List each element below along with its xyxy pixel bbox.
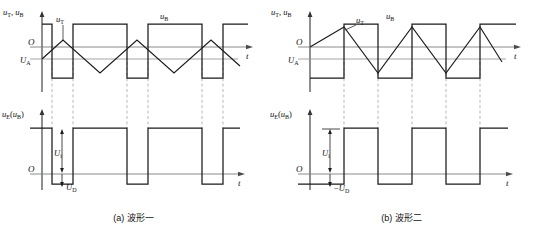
panel-a-svg: uT, uB O UA uT uB t — [0, 0, 267, 200]
caption-panel-b: (b) 波形二 — [268, 211, 535, 224]
triangle-wave-ut-a — [42, 40, 240, 73]
lower-y-axis-label-b: uE(uB) — [270, 109, 292, 120]
upper-x-axis-arrow-b — [514, 45, 521, 50]
lower-x-axis-label-a: t — [238, 178, 241, 188]
trace-label-ub-b: uB — [386, 11, 394, 22]
upper-x-axis-label-b: t — [514, 51, 517, 61]
reference-label-ua-b: UA — [288, 55, 299, 66]
upper-origin-label-a: O — [28, 37, 35, 47]
square-wave-ub-a — [42, 24, 248, 78]
upper-y-axis-arrow-a — [40, 11, 45, 17]
caption-panel-a: (a) 波形一 — [0, 211, 267, 224]
lower-plot-b: Ui −UD uE(uB) O t — [270, 109, 513, 194]
triangle-wave-ut-b — [310, 27, 502, 73]
trace-label-ut-b: uT — [356, 15, 364, 26]
upper-y-axis-arrow-b — [308, 11, 313, 17]
upper-y-axis-label-a: uT, uB — [3, 7, 23, 18]
upper-x-axis-label-a: t — [246, 51, 249, 61]
lower-y-axis-arrow-b — [308, 109, 313, 115]
upper-plot-b: uT, uB O UA uT uB t — [271, 7, 521, 128]
panel-waveform-a: uT, uB O UA uT uB t — [0, 0, 267, 227]
amplitude-arrow-ui-a — [60, 129, 64, 173]
upper-y-axis-label-b: uT, uB — [271, 7, 291, 18]
trace-label-ub-a: uB — [160, 11, 168, 22]
ut-leader-line-b — [345, 25, 356, 30]
reference-label-ua-a: UA — [20, 55, 31, 66]
dashed-connectors-a — [52, 62, 223, 128]
upper-origin-label-b: O — [296, 37, 303, 47]
panel-b-svg: uT, uB O UA uT uB t — [268, 0, 535, 200]
offset-arrow-ud-a — [60, 174, 64, 187]
offset-label-ud-a: UD — [66, 182, 77, 193]
lower-plot-a: Ui UD uE(uB) O t — [2, 109, 245, 193]
lower-y-axis-label-a: uE(uB) — [2, 109, 24, 120]
panel-waveform-b: uT, uB O UA uT uB t — [268, 0, 535, 227]
lower-x-axis-arrow-b — [506, 172, 513, 177]
upper-plot-a: uT, uB O UA uT uB t — [3, 7, 253, 128]
lower-x-axis-label-b: t — [506, 178, 509, 188]
amplitude-label-ui-b: Ui — [322, 148, 330, 159]
lower-origin-label-b: O — [296, 164, 303, 174]
offset-arrow-ud-b — [328, 174, 332, 187]
square-wave-ub-b — [310, 24, 516, 78]
offset-label-ud-b: −UD — [334, 183, 350, 194]
lower-origin-label-a: O — [28, 164, 35, 174]
upper-x-axis-arrow-a — [246, 45, 253, 50]
trace-label-ut-a: uT — [56, 14, 64, 25]
lower-x-axis-arrow-a — [238, 172, 245, 177]
amplitude-label-ui-a: Ui — [54, 148, 62, 159]
lower-y-axis-arrow-a — [40, 109, 45, 115]
